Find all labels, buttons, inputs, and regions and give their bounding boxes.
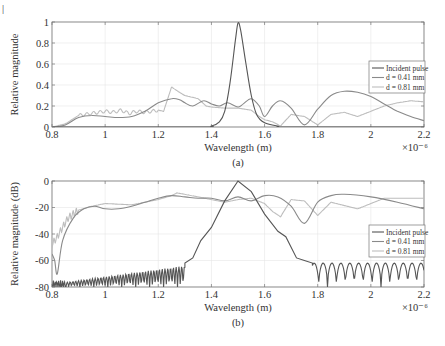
x-tick-label: 1.2 bbox=[152, 289, 165, 300]
x-tick-label: 2 bbox=[368, 129, 373, 140]
x-tick-label: 1.2 bbox=[152, 129, 165, 140]
x-tick-label: 1 bbox=[103, 289, 108, 300]
chart-b: 0.811.21.41.61.822.2-80-60-40-200×10⁻⁶Wa… bbox=[9, 176, 431, 330]
chart-caption: (b) bbox=[232, 317, 245, 329]
legend-label: Incident pulse bbox=[386, 228, 429, 237]
x-tick-label: 1.6 bbox=[258, 129, 271, 140]
y-tick-label: 1 bbox=[44, 17, 49, 28]
x-tick-label: 1 bbox=[103, 129, 108, 140]
y-tick-label: 0 bbox=[44, 176, 49, 187]
y-tick-label: -20 bbox=[35, 202, 49, 213]
legend-label: d = 0.81 mm bbox=[386, 83, 425, 92]
chart-caption: (a) bbox=[232, 157, 244, 169]
x-tick-label: 2 bbox=[368, 289, 373, 300]
x-exponent-label: ×10⁻⁶ bbox=[402, 142, 428, 153]
x-axis-label: Wavelength (m) bbox=[204, 302, 272, 314]
page-mark: | bbox=[2, 3, 4, 14]
legend-label: d = 0.41 mm bbox=[386, 73, 425, 82]
x-tick-label: 1.8 bbox=[311, 129, 324, 140]
y-tick-label: -60 bbox=[35, 255, 49, 266]
x-tick-label: 2.2 bbox=[417, 129, 430, 140]
x-tick-label: 2.2 bbox=[417, 289, 430, 300]
x-tick-label: 1.8 bbox=[311, 289, 324, 300]
y-tick-label: -40 bbox=[35, 229, 49, 240]
y-tick-label: 0.4 bbox=[36, 80, 50, 91]
legend-label: d = 0.81 mm bbox=[386, 247, 425, 256]
x-axis-label: Wavelength (m) bbox=[204, 142, 272, 154]
x-tick-label: 1.4 bbox=[205, 129, 219, 140]
legend-label: d = 0.41 mm bbox=[386, 237, 425, 246]
y-tick-label: 0.2 bbox=[36, 101, 49, 112]
y-axis-label: Relative magnitude bbox=[9, 33, 20, 115]
legend-label: Incident pulse bbox=[386, 64, 429, 73]
y-tick-label: -80 bbox=[35, 282, 49, 293]
figure: | 0.811.21.41.61.822.200.20.40.60.81×10⁻… bbox=[0, 0, 445, 346]
series-line-d-0-41-mm bbox=[52, 91, 424, 127]
series-line-d-0-81-mm bbox=[52, 193, 424, 248]
y-tick-label: 0.6 bbox=[36, 59, 49, 70]
x-tick-label: 1.6 bbox=[258, 289, 271, 300]
y-tick-label: 0 bbox=[44, 122, 49, 133]
y-axis-label: Relative magnitude (dB) bbox=[9, 182, 21, 286]
chart-a: 0.811.21.41.61.822.200.20.40.60.81×10⁻⁶W… bbox=[9, 17, 431, 170]
series-group bbox=[52, 22, 424, 127]
x-tick-label: 1.4 bbox=[205, 289, 219, 300]
y-tick-label: 0.8 bbox=[36, 38, 49, 49]
x-exponent-label: ×10⁻⁶ bbox=[402, 302, 428, 313]
